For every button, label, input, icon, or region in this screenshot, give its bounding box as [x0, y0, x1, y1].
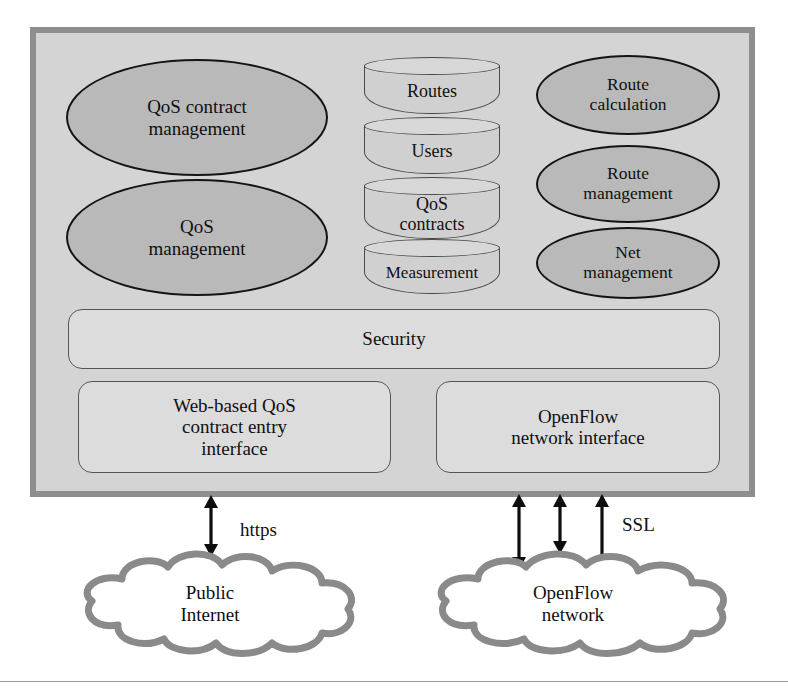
layer-security[interactable]: Security — [68, 309, 720, 369]
controller-frame: QoS contract management QoS management R… — [30, 27, 755, 497]
interface-web-qos-contract-entry[interactable]: Web-based QoS contract entry interface — [78, 381, 391, 473]
module-label: QoS contract management — [147, 96, 247, 139]
datastore-label: QoS contracts — [364, 190, 500, 239]
module-qos-management[interactable]: QoS management — [66, 179, 328, 296]
cloud-public-internet[interactable]: Public Internet — [60, 549, 360, 659]
datastore-label: Measurement — [364, 252, 500, 294]
datastore-qos-contracts[interactable]: QoS contracts — [364, 177, 500, 239]
module-label: Route calculation — [590, 75, 667, 114]
bottom-divider — [0, 681, 788, 682]
datastore-routes[interactable]: Routes — [364, 57, 500, 114]
layer-label: Security — [362, 328, 425, 349]
module-qos-contract-management[interactable]: QoS contract management — [66, 59, 328, 176]
datastore-users[interactable]: Users — [364, 117, 500, 174]
arrow-ssl-2 — [549, 494, 571, 554]
datastore-label: Users — [364, 130, 500, 174]
interface-openflow-network[interactable]: OpenFlow network interface — [436, 381, 720, 473]
cloud-openflow-network[interactable]: OpenFlow network — [412, 549, 734, 659]
cloud-label: OpenFlow network — [412, 549, 734, 659]
interface-label: Web-based QoS contract entry interface — [173, 395, 295, 459]
architecture-diagram: QoS contract management QoS management R… — [0, 0, 788, 692]
module-label: Route management — [583, 164, 672, 203]
cloud-label: Public Internet — [60, 549, 360, 659]
datastore-measurement[interactable]: Measurement — [364, 239, 500, 294]
datastore-label: Routes — [364, 70, 500, 114]
module-route-calculation[interactable]: Route calculation — [536, 55, 720, 135]
arrow-https — [200, 495, 222, 557]
label-ssl: SSL — [622, 514, 655, 536]
module-label: QoS management — [148, 216, 245, 259]
module-label: Net management — [583, 243, 672, 282]
label-https: https — [240, 519, 277, 541]
module-net-management[interactable]: Net management — [536, 227, 720, 299]
interface-label: OpenFlow network interface — [511, 406, 644, 449]
module-route-management[interactable]: Route management — [536, 145, 720, 223]
